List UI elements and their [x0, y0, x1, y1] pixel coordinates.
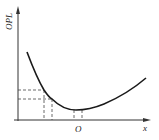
- y-axis-label: OPL: [4, 13, 14, 30]
- x-axis-arrow-icon: [143, 118, 151, 122]
- y-axis: [16, 6, 20, 121]
- y-axis-arrow-icon: [16, 6, 20, 14]
- opl-diagram: OPL O x: [0, 0, 159, 140]
- opl-curve: [27, 52, 146, 110]
- x-axis: [14, 118, 151, 122]
- projection-lines: [18, 90, 82, 120]
- x-axis-label: x: [142, 123, 147, 133]
- x-marker-label: O: [75, 124, 82, 134]
